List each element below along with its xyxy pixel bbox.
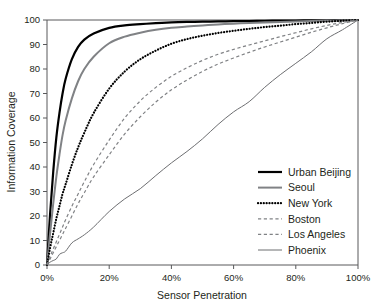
y-tick-label: 10 — [29, 235, 40, 246]
chart-background — [0, 0, 384, 308]
legend-label-new-york: New York — [288, 197, 333, 209]
y-tick-label: 100 — [24, 14, 40, 25]
line-chart: 0102030405060708090100 0%20%40%60%80%100… — [0, 0, 384, 308]
x-axis-label: Sensor Penetration — [157, 289, 247, 301]
y-tick-label: 50 — [29, 137, 40, 148]
x-tick-label: 100% — [346, 272, 371, 283]
legend-label-los-angeles: Los Angeles — [288, 228, 345, 240]
chart-container: 0102030405060708090100 0%20%40%60%80%100… — [0, 0, 384, 308]
y-tick-label: 90 — [29, 39, 40, 50]
y-tick-label: 30 — [29, 186, 40, 197]
legend-label-urban-beijing: Urban Beijing — [288, 166, 351, 178]
legend-label-seoul: Seoul — [288, 181, 315, 193]
y-tick-label: 60 — [29, 112, 40, 123]
legend-label-boston: Boston — [288, 213, 321, 225]
x-tick-label: 60% — [224, 272, 244, 283]
x-tick-label: 80% — [286, 272, 306, 283]
y-tick-label: 80 — [29, 63, 40, 74]
y-tick-label: 0 — [35, 259, 40, 270]
y-tick-label: 20 — [29, 210, 40, 221]
legend-label-phoenix: Phoenix — [288, 244, 327, 256]
y-axis-label: Information Coverage — [5, 91, 17, 192]
x-tick-label: 0% — [40, 272, 54, 283]
y-tick-label: 70 — [29, 88, 40, 99]
x-tick-label: 20% — [100, 272, 120, 283]
y-tick-label: 40 — [29, 161, 40, 172]
x-tick-label: 40% — [162, 272, 182, 283]
